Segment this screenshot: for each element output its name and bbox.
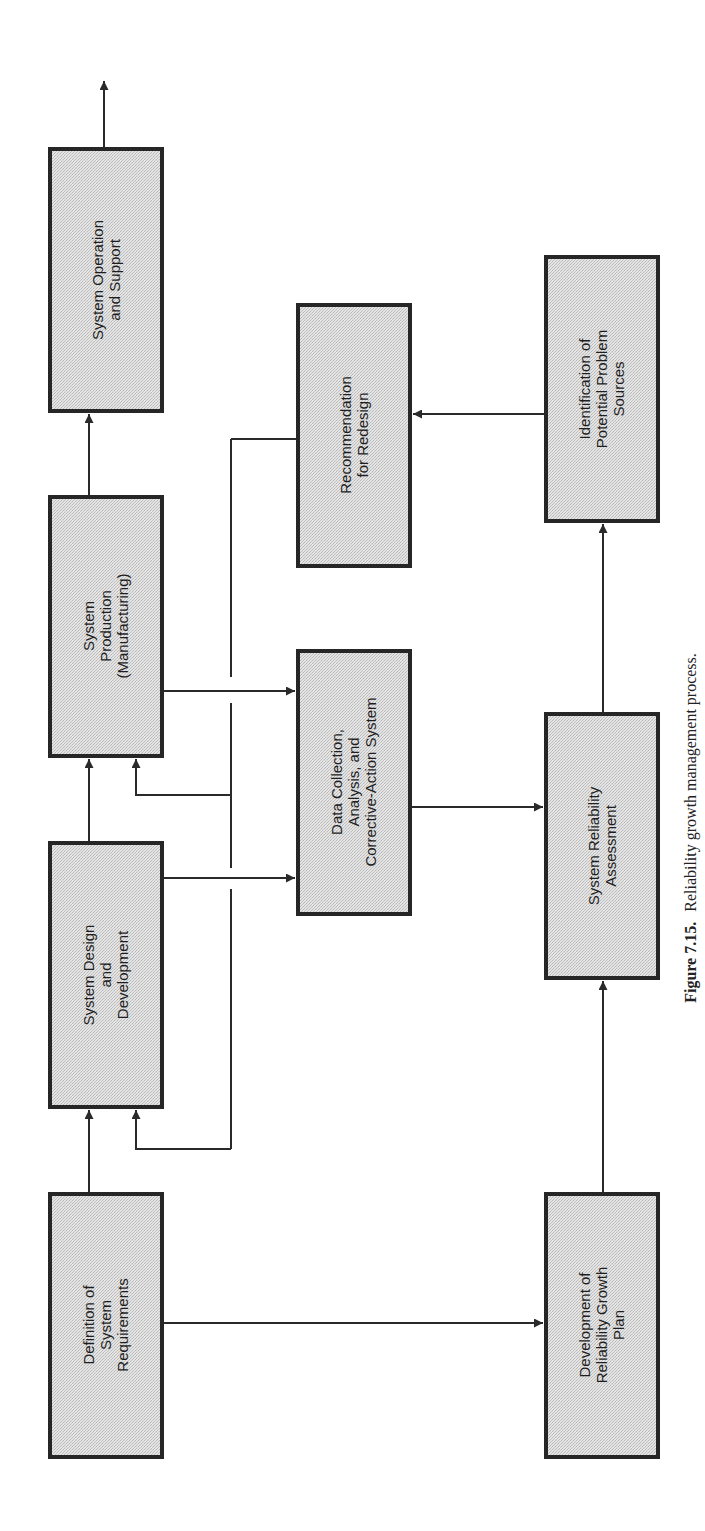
box-label-line: and	[97, 962, 114, 987]
box-label-line: Requirements	[114, 1278, 131, 1371]
box-label-line: Development	[114, 930, 131, 1019]
box-operation: System Operationand Support	[50, 149, 162, 411]
box-label-line: Reliability Growth	[593, 1267, 610, 1384]
box-label-line: Definition of	[80, 1285, 97, 1365]
box-label-line: Recommendation	[337, 376, 354, 494]
box-recommendation-label: Recommendationfor Redesign	[337, 376, 371, 494]
box-label-line: Sources	[610, 361, 627, 416]
box-label-line: System Operation	[89, 220, 106, 340]
box-label-line: System	[80, 601, 97, 651]
box-label-line: System Design	[80, 925, 97, 1026]
box-label-line: Production	[97, 590, 114, 662]
box-label-line: (Manufacturing)	[114, 573, 131, 678]
box-assessment: System ReliabilityAssessment	[546, 714, 658, 978]
caption-label: Figure 7.15.	[682, 922, 700, 1003]
box-label-line: Identification of	[576, 338, 593, 440]
figure-caption: Figure 7.15. Reliability growth manageme…	[682, 653, 700, 1003]
box-label-line: System Reliability	[585, 786, 602, 905]
box-label-line: for Redesign	[354, 392, 371, 477]
feedback-to-production	[136, 759, 231, 795]
box-label-line: Data Collection,	[328, 729, 345, 835]
box-growth-plan: Development ofReliability GrowthPlan	[546, 1194, 658, 1457]
box-label-line: and Support	[106, 238, 123, 321]
box-identification: Identification ofPotential ProblemSource…	[546, 257, 658, 521]
box-recommendation: Recommendationfor Redesign	[298, 305, 410, 566]
box-label-line: Assessment	[602, 804, 619, 887]
box-design: System DesignandDevelopment	[50, 843, 162, 1107]
box-definition: Definition ofSystemRequirements	[50, 1194, 162, 1457]
box-production: SystemProduction(Manufacturing)	[50, 497, 162, 756]
box-label-line: Development of	[576, 1272, 593, 1378]
box-label-line: Analysis, and	[345, 737, 362, 826]
box-data-collection: Data Collection,Analysis, andCorrective-…	[298, 651, 410, 914]
reliability-growth-diagram: Definition ofSystemRequirements System D…	[0, 0, 705, 1531]
box-label-line: Potential Problem	[593, 330, 610, 448]
box-label-line: System	[97, 1300, 114, 1350]
caption-text: Reliability growth management process.	[682, 653, 700, 912]
box-label-line: Plan	[610, 1310, 627, 1340]
box-label-line: Corrective-Action System	[362, 697, 379, 866]
feedback-to-design	[136, 1110, 231, 1149]
